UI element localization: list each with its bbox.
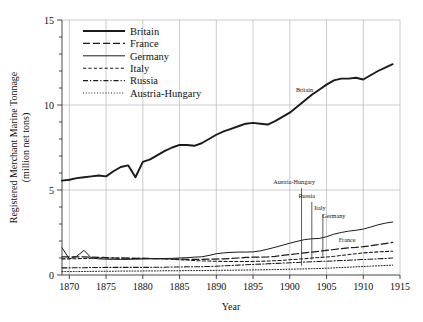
annotation-label-britain: Britain xyxy=(296,86,313,93)
x-axis-title: Year xyxy=(222,301,241,312)
annotation-label-austria-hungary: Austria-Hungary xyxy=(273,178,316,185)
legend-label-france: France xyxy=(130,38,159,49)
x-tick-label: 1885 xyxy=(170,281,190,292)
legend-label-austria-hungary: Austria-Hungary xyxy=(130,88,202,99)
chart-figure: 1870187518801885189018951900190519101915… xyxy=(0,0,423,322)
y-tick-label: 10 xyxy=(44,100,54,111)
figure-background xyxy=(0,0,423,322)
annotation-label-italy: Italy xyxy=(314,204,326,211)
annotation-label-russia: Russia xyxy=(298,192,315,199)
x-tick-label: 1875 xyxy=(96,281,116,292)
y-tick-label: 15 xyxy=(44,15,54,26)
legend-label-germany: Germany xyxy=(130,51,170,62)
y-axis-title-line2: (million net tons) xyxy=(20,113,32,182)
x-tick-label: 1915 xyxy=(390,281,410,292)
legend-label-italy: Italy xyxy=(130,63,150,74)
annotation-label-france: France xyxy=(339,236,356,243)
x-tick-label: 1905 xyxy=(317,281,337,292)
x-tick-label: 1910 xyxy=(353,281,373,292)
annotation-label-germany: Germany xyxy=(322,212,346,219)
x-tick-label: 1870 xyxy=(59,281,79,292)
x-tick-label: 1890 xyxy=(206,281,226,292)
x-tick-label: 1880 xyxy=(133,281,153,292)
merchant-marine-tonnage-line-chart: 1870187518801885189018951900190519101915… xyxy=(0,0,423,322)
y-tick-label: 0 xyxy=(49,270,54,281)
x-tick-label: 1900 xyxy=(280,281,300,292)
legend-label-russia: Russia xyxy=(130,75,158,86)
legend-label-britain: Britain xyxy=(130,26,160,37)
y-axis-title-line1: Registered Merchant Marine Tonnage xyxy=(8,71,19,223)
x-tick-label: 1895 xyxy=(243,281,263,292)
y-tick-label: 5 xyxy=(49,185,54,196)
